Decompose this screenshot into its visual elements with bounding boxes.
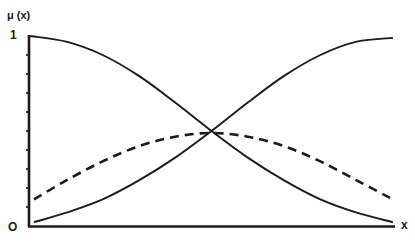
y-axis-label: μ (x) [7,9,30,21]
series-increasing-line [34,38,393,222]
series-layer [30,36,393,222]
chart-plot [0,0,415,242]
x-axis-label: x [401,218,408,232]
series-decreasing-line [30,36,393,222]
series-dashed-line [34,133,393,200]
origin-label: O [8,220,17,234]
y-tick-label-1: 1 [10,28,17,42]
